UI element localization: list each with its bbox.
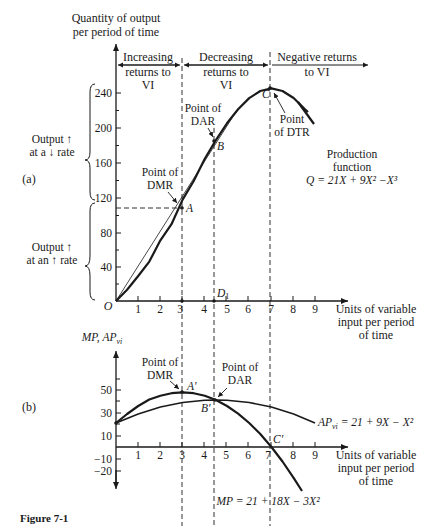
panel-a-y-axis-title-line2: per period of time [73, 25, 159, 39]
dar-annotation-line2: DAR [191, 115, 216, 127]
panel-b-x-tick-5: 5 [223, 449, 229, 461]
point-a-label: A [185, 202, 194, 214]
pf-equation: Q = 21X + 9X² −X³ [306, 174, 398, 186]
pf-label-line2: function [333, 161, 372, 173]
panel-b-x-tick-9: 9 [312, 449, 318, 461]
intercept-marker [114, 421, 118, 425]
brace-lower-line2: at an ↑ rate [27, 254, 78, 266]
panel-b-x-ticks [138, 442, 315, 447]
panel-b-y-ticks [116, 379, 121, 471]
point-b-prime-marker [213, 398, 217, 402]
panel-a-x-tick-2: 2 [157, 303, 163, 315]
panel-b-y-axis-title: MP, APvi [81, 331, 123, 346]
dmr-annotation-line2: DMR [147, 179, 174, 191]
panel-b-y-tick-30: 30 [101, 407, 113, 419]
dtr-annotation-line2: of DTR [274, 126, 310, 138]
point-b-marker [212, 139, 216, 143]
pf-label-line1: Production [327, 148, 378, 160]
b-dar-annotation-line1: Point of [222, 361, 259, 373]
panel-b-y-tick-50: 50 [101, 384, 113, 396]
point-d-label: D1 [216, 287, 229, 301]
point-d1-marker [212, 299, 216, 303]
panel-a-x-tick-4: 4 [201, 303, 207, 315]
panel-a-y-tick-240: 240 [95, 87, 113, 99]
dtr-annotation-line1: Point [280, 113, 305, 125]
stage2-line3: VI [220, 78, 233, 92]
panel-a-y-ticks [116, 93, 121, 284]
panel-b-x-axis-title-line1: Units of variable [336, 448, 417, 462]
mp-equation: MP = 21 + 18X − 3X² [215, 495, 320, 507]
panel-a-x-tick-7: 7 [268, 303, 274, 315]
b-dar-arrow [218, 388, 227, 397]
stage3-line1: Negative returns [277, 50, 357, 64]
panel-b-x-tick-6: 6 [245, 449, 251, 461]
panel-a-y-axis-title-line1: Quantity of output [72, 11, 161, 25]
brace-upper [85, 84, 95, 200]
panel-a-x-tick-9: 9 [312, 303, 318, 315]
panel-b-x-tick-2: 2 [157, 449, 163, 461]
stage3-line2: to VI [305, 65, 330, 79]
figure-caption: Figure 7-1 [20, 512, 68, 524]
b-dar-annotation-line2: DAR [228, 374, 253, 386]
point-x3-marker [180, 299, 184, 303]
dar-annotation-line1: Point of [185, 102, 222, 114]
point-a-marker [180, 206, 184, 210]
panel-b-x-tick-4: 4 [201, 449, 207, 461]
b-dmr-annotation-line1: Point of [142, 356, 179, 368]
point-c-label: C [262, 88, 270, 100]
ray-from-origin [116, 118, 232, 301]
figure-canvas: Quantity of output per period of time 24… [0, 0, 424, 526]
panel-b-x-tick-1: 1 [135, 449, 141, 461]
stage1-line3: VI [142, 78, 155, 92]
panel-a-x-tick-5: 5 [224, 303, 230, 315]
panel-a-x-axis-title-line2: input per period [338, 315, 415, 329]
brace-lower-line1: Output ↑ [32, 241, 73, 254]
point-b-prime-label: B′ [201, 402, 211, 414]
panel-b-x-tick-7: 7 [265, 449, 271, 461]
panel-a-label: (a) [22, 172, 35, 186]
panel-a-x-tick-8: 8 [290, 303, 296, 315]
panel-a-y-tick-80: 80 [101, 227, 113, 239]
brace-upper-line1: Output ↑ [32, 133, 73, 146]
panel-a-y-tick-160: 160 [95, 157, 113, 169]
brace-lower [85, 203, 95, 300]
panel-a-y-tick-40: 40 [101, 261, 113, 273]
dar-arrow [208, 128, 213, 137]
ap-equation: APvi = 21 + 9X − X² [317, 416, 414, 431]
dmr-arrow [168, 192, 177, 203]
stage1-line1: Increasing [123, 50, 173, 64]
panel-b-label: (b) [22, 400, 36, 414]
stage2-line1: Decreasing [199, 50, 253, 64]
panel-a-y-tick-200: 200 [95, 122, 113, 134]
stage2-line2: returns to [203, 65, 249, 79]
panel-b-x-tick-8: 8 [290, 449, 296, 461]
panel-b: MP, APvi 50 30 10 −10 −20 [22, 331, 416, 507]
panel-b-x-axis-title-line2: input per period [338, 461, 415, 475]
point-a-prime-marker [180, 390, 184, 394]
origin-label: O [104, 299, 113, 313]
b-dmr-arrow [170, 381, 179, 389]
panel-b-y-tick-neg20: −20 [94, 465, 112, 477]
dtr-arrow [274, 93, 285, 113]
point-b-label: B [217, 140, 224, 152]
panel-a-y-tick-120: 120 [95, 192, 113, 204]
panel-b-y-tick-neg10: −10 [94, 453, 112, 465]
dmr-annotation-line1: Point of [142, 166, 179, 178]
point-a-prime-label: A′ [186, 380, 197, 392]
panel-a-x-tick-1: 1 [135, 303, 141, 315]
b-dmr-annotation-line2: DMR [147, 369, 174, 381]
point-c-prime-label: C′ [273, 433, 284, 445]
stage1-line2: returns to [125, 65, 171, 79]
panel-a-x-axis-title-line1: Units of variable [336, 302, 417, 316]
panel-b-x-axis-title-line3: of time [359, 474, 393, 488]
panel-a-x-axis-title-line3: of time [359, 328, 393, 342]
panel-a-x-tick-6: 6 [245, 303, 251, 315]
panel-b-y-tick-10: 10 [101, 430, 113, 442]
brace-upper-line2: at a ↓ rate [29, 146, 74, 158]
panel-b-x-tick-3: 3 [179, 449, 185, 461]
ap-curve [116, 400, 315, 423]
